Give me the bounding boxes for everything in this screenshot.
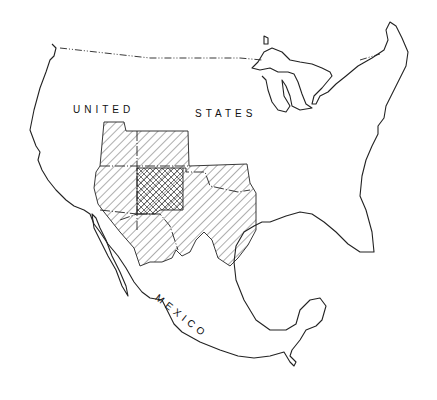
label-states: STATES [195, 108, 256, 119]
label-united: UNITED [73, 104, 134, 115]
crosshatched-region [137, 168, 183, 214]
map-canvas [0, 0, 437, 400]
us-canada-border [60, 48, 262, 60]
